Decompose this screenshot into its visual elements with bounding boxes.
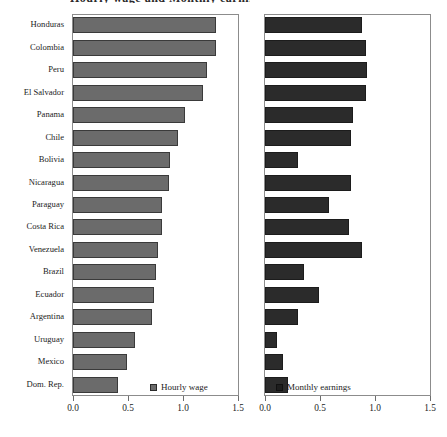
category-label: Bolivia [0, 155, 64, 164]
bar [265, 62, 367, 78]
bar [73, 107, 185, 123]
bar [73, 85, 203, 101]
axis-tick-label: 1.5 [232, 403, 244, 413]
axis-tick [73, 396, 74, 401]
bar [265, 17, 362, 33]
legend-monthly-earnings: Monthly earnings [276, 382, 351, 392]
bar [73, 152, 170, 168]
category-label: Panama [0, 110, 64, 119]
bar [265, 309, 298, 325]
bar [73, 309, 152, 325]
bar [265, 107, 353, 123]
bar [73, 130, 178, 146]
legend-label-monthly-earnings: Monthly earnings [287, 382, 351, 392]
axis-tick-label: 0.5 [314, 403, 326, 413]
category-label: Honduras [0, 20, 64, 29]
category-label: Chile [0, 133, 64, 142]
square-light-gray-icon [150, 384, 157, 391]
square-dark-icon [276, 384, 283, 391]
bar [73, 354, 127, 370]
axis-tick [238, 396, 239, 401]
figure-root: Hourly wage and Monthly earnings Hondura… [0, 0, 447, 437]
value-axis-left: 0.00.51.01.5 [72, 396, 239, 426]
bar [73, 287, 154, 303]
axis-tick [128, 396, 129, 401]
bar [73, 219, 162, 235]
category-label: Peru [0, 65, 64, 74]
bar [265, 264, 304, 280]
bar [73, 264, 156, 280]
axis-tick [265, 396, 266, 401]
value-axis-right: 0.00.51.01.5 [264, 396, 431, 426]
bar [265, 354, 283, 370]
axis-tick-label: 1.0 [369, 403, 381, 413]
bar [73, 377, 118, 393]
bar [265, 152, 298, 168]
category-label: Mexico [0, 357, 64, 366]
bar [265, 242, 362, 258]
category-label: Argentina [0, 312, 64, 321]
category-label: Ecuador [0, 290, 64, 299]
axis-tick-label: 0.0 [259, 403, 271, 413]
category-label: Uruguay [0, 335, 64, 344]
panel-monthly-earnings: Monthly earnings [264, 14, 431, 396]
figure-title-clipped: Hourly wage and Monthly earnings [70, 0, 250, 3]
legend-label-hourly-wage: Hourly wage [161, 382, 208, 392]
axis-tick [375, 396, 376, 401]
legend-hourly-wage: Hourly wage [150, 382, 208, 392]
bar [73, 197, 162, 213]
axis-tick [320, 396, 321, 401]
category-label: Costa Rica [0, 222, 64, 231]
axis-tick-label: 0.5 [122, 403, 134, 413]
bar [73, 17, 216, 33]
category-label: Brazil [0, 267, 64, 276]
axis-tick-label: 0.0 [67, 403, 79, 413]
category-label: Paraguay [0, 200, 64, 209]
category-label: Colombia [0, 43, 64, 52]
bar [73, 62, 207, 78]
bar [265, 197, 329, 213]
panel-hourly-wage: Hourly wage [72, 14, 239, 396]
bar [73, 40, 216, 56]
bar [73, 242, 158, 258]
bar [265, 40, 366, 56]
bar [265, 130, 351, 146]
bar [265, 85, 366, 101]
category-label: Nicaragua [0, 178, 64, 187]
category-label: Venezuela [0, 245, 64, 254]
category-label: Dom. Rep. [0, 380, 64, 389]
axis-tick [183, 396, 184, 401]
category-axis-labels: HondurasColombiaPeruEl SalvadorPanamaChi… [0, 14, 68, 396]
axis-tick-label: 1.0 [177, 403, 189, 413]
bar [73, 332, 135, 348]
axis-tick-label: 1.5 [424, 403, 436, 413]
bar [265, 175, 351, 191]
bar [73, 175, 169, 191]
bar [265, 219, 349, 235]
axis-tick [430, 396, 431, 401]
bar [265, 332, 277, 348]
bar [265, 287, 319, 303]
category-label: El Salvador [0, 88, 64, 97]
